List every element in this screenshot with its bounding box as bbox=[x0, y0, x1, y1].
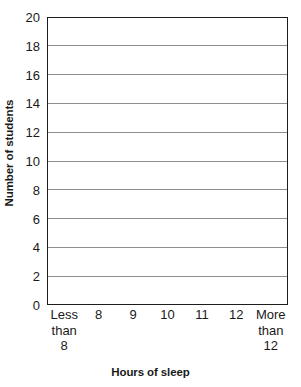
gridline bbox=[48, 132, 287, 133]
gridline bbox=[48, 247, 287, 248]
y-axis-tick-label: 12 bbox=[16, 126, 40, 139]
y-axis-tick-label: 8 bbox=[16, 183, 40, 196]
gridline bbox=[48, 189, 287, 190]
chart-figure: Number of students 02468101214161820 Les… bbox=[0, 0, 301, 387]
gridline bbox=[48, 276, 287, 277]
y-axis-tick-labels: 02468101214161820 bbox=[18, 17, 44, 305]
y-axis-tick-label: 18 bbox=[16, 39, 40, 52]
y-axis-tick-label: 14 bbox=[16, 97, 40, 110]
y-axis-title-text: Number of students bbox=[3, 99, 15, 206]
y-axis-tick-label: 2 bbox=[16, 270, 40, 283]
y-axis-tick-label: 6 bbox=[16, 212, 40, 225]
x-axis-tick-labels: Less than 889101112More than 12 bbox=[47, 307, 288, 365]
y-axis-tick-label: 4 bbox=[16, 241, 40, 254]
gridline bbox=[48, 74, 287, 75]
gridline bbox=[48, 103, 287, 104]
y-axis-tick-label: 10 bbox=[16, 155, 40, 168]
x-axis-title: Hours of sleep bbox=[0, 366, 301, 378]
y-axis-tick-label: 0 bbox=[16, 299, 40, 312]
plot-area bbox=[47, 17, 288, 305]
gridline bbox=[48, 218, 287, 219]
y-axis-tick-label: 20 bbox=[16, 11, 40, 24]
x-axis-tick-label: More than 12 bbox=[250, 307, 292, 354]
gridline bbox=[48, 45, 287, 46]
gridline bbox=[48, 161, 287, 162]
y-axis-tick-label: 16 bbox=[16, 68, 40, 81]
